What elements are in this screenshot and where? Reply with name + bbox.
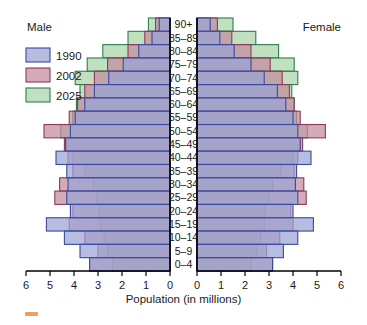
bar-female-1990-17 — [197, 244, 283, 257]
x-tick-label-left-1: 5 — [47, 279, 53, 291]
bar-female-1990-4 — [197, 71, 264, 84]
bar-female-1990-11 — [197, 164, 297, 177]
bar-male-1990-10 — [56, 151, 170, 164]
x-tick-label-left-4: 2 — [119, 279, 125, 291]
bar-male-1990-12 — [68, 178, 170, 191]
age-group-label-16: 10–14 — [169, 231, 198, 243]
bar-male-1990-16 — [64, 231, 170, 244]
pyramid-svg: 6543210012345690+85–8980–8475–7970–7465–… — [0, 0, 367, 325]
legend-swatch-1990 — [26, 48, 50, 62]
x-tick-label-left-0: 6 — [23, 279, 29, 291]
legend-label-2025: 2025 — [56, 90, 82, 102]
x-tick-label-left-6: 0 — [167, 279, 173, 291]
age-group-label-11: 35–39 — [169, 165, 198, 177]
x-tick-label-right-6: 6 — [338, 279, 344, 291]
bar-male-1990-9 — [66, 138, 170, 151]
x-tick-label-left-3: 3 — [95, 279, 101, 291]
age-group-label-0: 90+ — [175, 18, 193, 30]
x-tick-label-right-4: 4 — [290, 279, 296, 291]
x-tick-label-left-5: 1 — [143, 279, 149, 291]
bar-female-1990-12 — [197, 178, 295, 191]
bar-female-1990-6 — [197, 98, 286, 111]
bar-female-1990-13 — [197, 191, 298, 204]
bar-male-1990-7 — [75, 111, 170, 124]
bar-male-1990-18 — [90, 258, 170, 271]
male-side-label: Male — [27, 21, 52, 33]
bar-female-1990-8 — [197, 125, 298, 138]
age-group-label-6: 60–64 — [169, 98, 198, 110]
age-group-label-9: 45–49 — [169, 138, 198, 150]
age-group-label-17: 5–9 — [175, 245, 193, 257]
age-group-label-7: 55–59 — [169, 111, 198, 123]
bar-male-1990-14 — [70, 204, 170, 217]
x-tick-label-right-1: 1 — [218, 279, 224, 291]
bar-male-1990-2 — [139, 45, 170, 58]
legend-swatch-2025 — [26, 88, 50, 102]
x-tick-label-right-5: 5 — [314, 279, 320, 291]
age-group-label-18: 0–4 — [175, 258, 193, 270]
population-pyramid-chart: 6543210012345690+85–8980–8475–7970–7465–… — [0, 0, 367, 325]
bar-female-1990-16 — [197, 231, 298, 244]
age-group-label-13: 25–29 — [169, 191, 198, 203]
bar-male-1990-5 — [94, 85, 170, 98]
bar-male-1990-6 — [85, 98, 170, 111]
x-tick-label-right-3: 3 — [266, 279, 272, 291]
age-group-label-10: 40–44 — [169, 151, 198, 163]
bar-female-1990-5 — [197, 85, 277, 98]
bar-female-1990-1 — [197, 31, 220, 44]
bar-male-1990-17 — [80, 244, 170, 257]
bar-female-1990-0 — [197, 18, 210, 31]
x-tick-label-left-2: 4 — [71, 279, 77, 291]
age-group-label-1: 85–89 — [169, 32, 198, 44]
bar-female-1990-10 — [197, 151, 311, 164]
bar-male-1990-15 — [46, 218, 170, 231]
x-tick-label-right-2: 2 — [242, 279, 248, 291]
bar-male-1990-13 — [67, 191, 170, 204]
age-group-label-8: 50–54 — [169, 125, 198, 137]
x-tick-label-right-0: 0 — [194, 279, 200, 291]
legend-label-2002: 2002 — [56, 70, 82, 82]
legend-swatch-2002 — [26, 68, 50, 82]
age-group-label-14: 20–24 — [169, 205, 198, 217]
female-side-label: Female — [303, 21, 341, 33]
bar-female-1990-7 — [197, 111, 293, 124]
bar-male-1990-11 — [67, 164, 170, 177]
age-group-label-15: 15–19 — [169, 218, 198, 230]
bar-male-1990-0 — [159, 18, 170, 31]
bar-female-1990-9 — [197, 138, 300, 151]
bar-male-1990-4 — [109, 71, 170, 84]
bar-female-1990-15 — [197, 218, 313, 231]
bar-female-1990-2 — [197, 45, 234, 58]
legend-label-1990: 1990 — [56, 50, 82, 62]
age-group-label-5: 65–69 — [169, 85, 198, 97]
age-group-label-3: 75–79 — [169, 58, 198, 70]
bar-male-1990-1 — [152, 31, 170, 44]
bar-female-1990-18 — [197, 258, 273, 271]
bar-female-1990-14 — [197, 204, 293, 217]
age-group-label-2: 80–84 — [169, 45, 198, 57]
bar-male-1990-8 — [70, 125, 170, 138]
age-group-label-12: 30–34 — [169, 178, 198, 190]
bar-male-1990-3 — [123, 58, 170, 71]
bar-female-1990-3 — [197, 58, 251, 71]
x-axis-title: Population (in millions) — [126, 293, 242, 305]
age-group-label-4: 70–74 — [169, 72, 198, 84]
orange-marker-icon — [25, 312, 38, 316]
